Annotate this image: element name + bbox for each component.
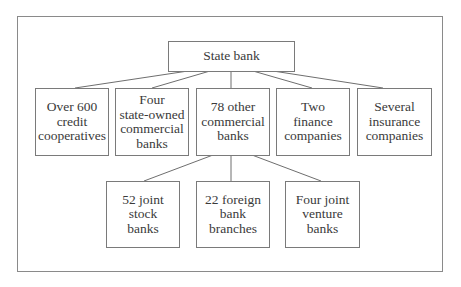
node-joint-stock-banks: 52 joint stock banks: [106, 181, 180, 248]
node-finance-companies: Two finance companies: [276, 88, 350, 156]
node-label: 78 other commercial banks: [201, 100, 265, 144]
node-label: Several insurance companies: [366, 100, 424, 144]
connector-root-to-insurance: [273, 71, 383, 88]
node-state-bank: State bank: [168, 41, 295, 72]
node-label: Two finance companies: [284, 100, 342, 144]
node-label: 52 joint stock banks: [122, 193, 164, 237]
node-insurance-companies: Several insurance companies: [357, 88, 432, 156]
connector-other-to-joint-venture: [252, 155, 321, 181]
node-joint-venture-banks: Four joint venture banks: [285, 181, 360, 248]
connector-root-to-state-owned: [152, 71, 210, 88]
node-state-owned-commercial-banks: Four state-owned commercial banks: [115, 88, 189, 156]
connector-other-to-joint-stock: [144, 155, 213, 181]
connector-root-to-finance: [253, 71, 312, 88]
node-foreign-bank-branches: 22 foreign bank branches: [196, 181, 270, 248]
node-other-commercial-banks: 78 other commercial banks: [196, 88, 270, 156]
node-label: Four state-owned commercial banks: [119, 93, 184, 151]
node-label: Over 600 credit cooperatives: [38, 100, 106, 144]
node-label: 22 foreign bank branches: [205, 193, 261, 237]
node-label: State bank: [203, 49, 260, 64]
node-credit-cooperatives: Over 600 credit cooperatives: [35, 88, 109, 156]
connector-root-to-credit-coops: [75, 71, 188, 88]
node-label: Four joint venture banks: [296, 193, 350, 237]
